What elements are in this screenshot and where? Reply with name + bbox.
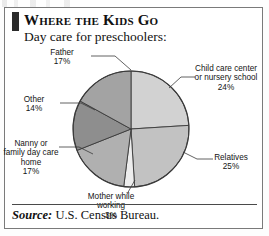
label-child-care-center: Child care center or nursery school 24% bbox=[191, 64, 261, 92]
source-label: Source: bbox=[12, 208, 52, 222]
leader-center-2 bbox=[169, 77, 181, 88]
footer-divider bbox=[12, 204, 257, 205]
source-value: U.S. Census Bureau. bbox=[55, 208, 159, 222]
label-father-pct: 17% bbox=[32, 57, 92, 66]
pie-chart: Father 17% Other 14% Nanny or family day… bbox=[5, 8, 262, 208]
label-nanny-line2: family day care bbox=[3, 148, 59, 157]
pie-slice bbox=[131, 71, 189, 129]
top-cutoff-artifact bbox=[0, 0, 269, 7]
label-relatives-name: Relatives bbox=[205, 153, 257, 162]
label-relatives-pct: 25% bbox=[205, 162, 257, 171]
label-center-line2: or nursery school bbox=[191, 73, 261, 82]
label-center-pct: 24% bbox=[191, 83, 261, 92]
label-center-line1: Child care center bbox=[191, 64, 261, 73]
infographic-root: Where the Kids Go Day care for preschool… bbox=[0, 0, 269, 236]
pie-slices bbox=[73, 71, 189, 187]
label-other-name: Other bbox=[8, 95, 60, 104]
label-other-pct: 14% bbox=[8, 104, 60, 113]
leader-father-2 bbox=[115, 56, 131, 70]
label-nanny-line3: home bbox=[3, 158, 59, 167]
source-line: Source: U.S. Census Bureau. bbox=[12, 208, 159, 223]
pie-slice bbox=[131, 125, 189, 187]
label-nanny-line1: Nanny or bbox=[3, 139, 59, 148]
label-relatives: Relatives 25% bbox=[205, 153, 257, 172]
label-mother-line1: Mother while bbox=[71, 192, 151, 201]
label-nanny-pct: 17% bbox=[3, 167, 59, 176]
label-father-name: Father bbox=[32, 48, 92, 57]
label-nanny: Nanny or family day care home 17% bbox=[3, 139, 59, 177]
label-father: Father 17% bbox=[32, 48, 92, 67]
label-other: Other 14% bbox=[8, 95, 60, 114]
leader-relatives-2 bbox=[183, 152, 197, 159]
infographic-frame: Where the Kids Go Day care for preschool… bbox=[4, 7, 263, 229]
